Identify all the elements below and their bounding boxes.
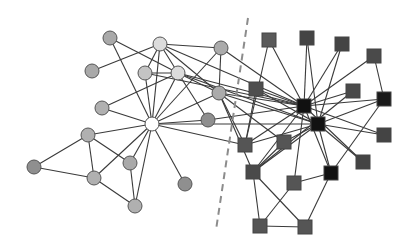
- circle-node-icon: [212, 86, 226, 100]
- square-node-icon: [300, 31, 314, 45]
- edge-S14-S17: [253, 172, 260, 226]
- circle-node-icon: [178, 177, 192, 191]
- circle-node-icon: [128, 199, 142, 213]
- edge-C12-C13: [34, 167, 94, 178]
- circle-node-icon: [123, 156, 137, 170]
- square-node-icon: [287, 176, 301, 190]
- square-node-icon: [324, 166, 338, 180]
- edge-C5-S6: [178, 73, 304, 106]
- circle-node-icon: [85, 64, 99, 78]
- edge-C8-C15: [135, 124, 152, 206]
- circle-node-icon: [103, 31, 117, 45]
- edge-S3-S6: [304, 44, 342, 106]
- square-node-icon: [367, 49, 381, 63]
- edge-S6-S13: [304, 106, 363, 162]
- edge-S7-S12: [318, 124, 384, 135]
- square-node-icon: [311, 117, 325, 131]
- circle-node-icon: [214, 41, 228, 55]
- square-node-icon: [246, 165, 260, 179]
- network-diagram: [0, 0, 413, 251]
- circle-node-icon: [27, 160, 41, 174]
- edge-C11-C12: [34, 135, 88, 167]
- edge-C7-C8: [102, 108, 152, 124]
- square-node-icon: [253, 219, 267, 233]
- circle-node-icon: [145, 117, 159, 131]
- circle-node-icon: [87, 171, 101, 185]
- square-node-icon: [249, 82, 263, 96]
- square-node-icon: [297, 99, 311, 113]
- circle-node-icon: [171, 66, 185, 80]
- edge-C3-C2: [92, 44, 160, 71]
- square-node-icon: [238, 138, 252, 152]
- square-node-icon: [377, 128, 391, 142]
- edge-S16-S18: [305, 173, 331, 227]
- edge-S1-S6: [269, 40, 304, 106]
- circle-node-icon: [153, 37, 167, 51]
- square-node-icon: [346, 84, 360, 98]
- circle-node-icon: [201, 113, 215, 127]
- square-node-icon: [298, 220, 312, 234]
- edge-S10-S6: [245, 106, 304, 145]
- circle-node-icon: [138, 66, 152, 80]
- circle-node-icon: [81, 128, 95, 142]
- square-node-icon: [277, 135, 291, 149]
- edge-C8-C16: [152, 124, 185, 184]
- edge-S4-S6: [304, 56, 374, 106]
- square-node-icon: [335, 37, 349, 51]
- edge-S2-S6: [304, 38, 307, 106]
- circle-node-icon: [95, 101, 109, 115]
- square-node-icon: [377, 92, 391, 106]
- square-node-icon: [356, 155, 370, 169]
- square-node-icon: [262, 33, 276, 47]
- edge-C11-C14: [88, 135, 130, 163]
